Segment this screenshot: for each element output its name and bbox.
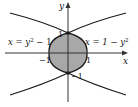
tick-label-y-pos: 1	[58, 30, 63, 39]
tick-label-y-neg: −1	[71, 72, 83, 81]
tick-label-x-pos: 1	[86, 56, 91, 65]
equation-label-right: x = 1 − y2	[85, 37, 129, 47]
region-diagram: y x 1 −1 1 −1 x = y2 − 1 x = 1 − y2	[0, 0, 138, 107]
curve-upper-right-branch	[68, 13, 126, 33]
y-axis-arrow-icon	[66, 2, 71, 8]
equation-right-exponent: 2	[125, 37, 129, 43]
x-axis-arrow-icon	[122, 51, 128, 56]
intersection-point-bottom	[66, 71, 70, 75]
equation-left-main: x = y	[8, 37, 30, 47]
x-axis-label: x	[123, 56, 128, 66]
tick-label-x-neg: −1	[39, 56, 51, 65]
equation-left-tail: − 1	[34, 37, 52, 47]
curve-lower-left-branch	[10, 73, 68, 95]
intersection-point-top	[66, 31, 70, 35]
equation-right-main: x = 1 − y	[85, 37, 125, 47]
equation-label-left: x = y2 − 1	[8, 37, 52, 47]
y-axis-label: y	[58, 1, 65, 11]
